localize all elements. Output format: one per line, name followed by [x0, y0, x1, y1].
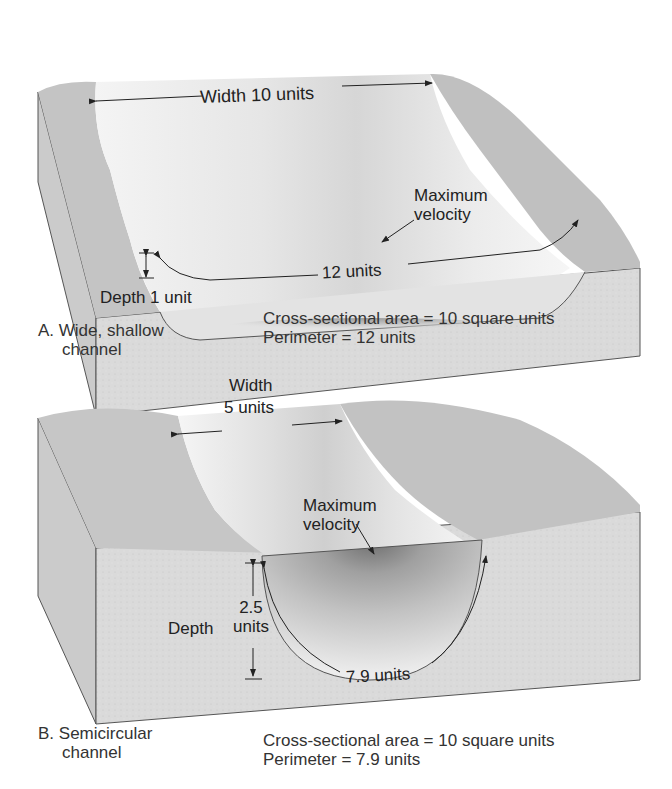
max-velocity-label: Maximum velocity	[414, 186, 488, 224]
perimeter-arc-label: 7.9 units	[346, 664, 411, 686]
channel-diagram-illustration	[0, 0, 672, 789]
panel-a-stats: Cross-sectional area = 10 square units P…	[263, 309, 555, 347]
perimeter-text: Perimeter = 7.9 units	[263, 750, 555, 769]
perimeter-arc-label: 12 units	[322, 260, 382, 282]
depth-label: Depth 1 unit	[100, 288, 192, 307]
width-value-label: 5 units	[224, 398, 274, 417]
panel-b-caption: B. Semicircular channel	[38, 724, 152, 762]
max-velocity-label: Maximum velocity	[303, 496, 377, 534]
depth-label: Depth	[168, 619, 213, 638]
area-text: Cross-sectional area = 10 square units	[263, 731, 555, 750]
area-text: Cross-sectional area = 10 square units	[263, 309, 555, 328]
width-label: Width	[229, 376, 272, 395]
width-label: Width 10 units	[200, 84, 315, 107]
panel-b-block	[38, 400, 640, 724]
panel-b-stats: Cross-sectional area = 10 square units P…	[263, 731, 555, 769]
depth-value-label: 2.5 units	[233, 598, 269, 636]
panel-a-caption: A. Wide, shallow channel	[38, 321, 164, 359]
perimeter-text: Perimeter = 12 units	[263, 328, 555, 347]
